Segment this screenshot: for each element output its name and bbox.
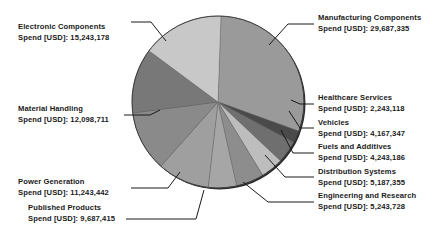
callout-value-vehicles: Spend [USD]: 4,167,347 — [318, 129, 405, 140]
pie-slice-group — [132, 16, 306, 190]
callout-name-material-handling: Material Handling — [18, 104, 109, 115]
callout-label-electronic-components: Electronic Components Spend [USD]: 15,24… — [18, 22, 109, 43]
callout-label-vehicles: Vehicles Spend [USD]: 4,167,347 — [318, 118, 405, 139]
callout-value-power-generation: Spend [USD]: 11,243,442 — [18, 188, 109, 199]
callout-name-vehicles: Vehicles — [318, 118, 405, 129]
pie-chart-figure: Electronic Components Spend [USD]: 15,24… — [0, 0, 445, 238]
callout-label-fuels-and-additives: Fuels and Additives Spend [USD]: 4,243,1… — [318, 142, 405, 163]
callout-value-engineering-and-research: Spend [USD]: 5,243,728 — [318, 202, 416, 213]
leader-line-engineering-and-research — [243, 182, 314, 202]
callout-value-published-products: Spend [USD]: 9,687,415 — [28, 214, 115, 225]
callout-name-healthcare-services: Healthcare Services — [318, 93, 405, 104]
callout-value-healthcare-services: Spend [USD]: 2,243,118 — [318, 104, 405, 115]
callout-name-manufacturing-components: Manufacturing Components — [318, 13, 421, 24]
leader-line-published-products — [126, 190, 204, 219]
callout-value-manufacturing-components: Spend [USD]: 29,687,335 — [318, 24, 421, 35]
callout-value-fuels-and-additives: Spend [USD]: 4,243,186 — [318, 153, 405, 164]
callout-value-material-handling: Spend [USD]: 12,098,711 — [18, 115, 109, 126]
callout-label-engineering-and-research: Engineering and Research Spend [USD]: 5,… — [318, 191, 416, 212]
callout-value-electronic-components: Spend [USD]: 15,243,178 — [18, 33, 109, 44]
callout-label-manufacturing-components: Manufacturing Components Spend [USD]: 29… — [318, 13, 421, 34]
callout-name-fuels-and-additives: Fuels and Additives — [318, 142, 405, 153]
callout-label-healthcare-services: Healthcare Services Spend [USD]: 2,243,1… — [318, 93, 405, 114]
callout-name-engineering-and-research: Engineering and Research — [318, 191, 416, 202]
callout-name-power-generation: Power Generation — [18, 177, 109, 188]
callout-name-published-products: Published Products — [28, 203, 115, 214]
callout-label-distribution-systems: Distribution Systems Spend [USD]: 5,187,… — [318, 167, 405, 188]
callout-label-published-products: Published Products Spend [USD]: 9,687,41… — [28, 203, 115, 224]
callout-name-electronic-components: Electronic Components — [18, 22, 109, 33]
callout-label-material-handling: Material Handling Spend [USD]: 12,098,71… — [18, 104, 109, 125]
callout-value-distribution-systems: Spend [USD]: 5,187,355 — [318, 178, 405, 189]
callout-name-distribution-systems: Distribution Systems — [318, 167, 405, 178]
callout-label-power-generation: Power Generation Spend [USD]: 11,243,442 — [18, 177, 109, 198]
